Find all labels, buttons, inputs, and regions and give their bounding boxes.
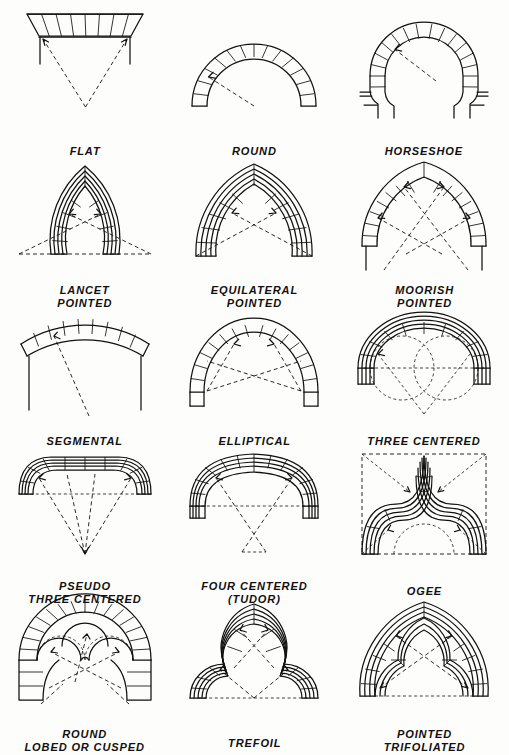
round-arch-radius-line [209,72,255,106]
figure-drawing-horseshoe [339,6,509,131]
figure-cell-ogee: OGEE [339,448,509,598]
figure-drawing-round [170,6,340,131]
figure-cell-elliptical: ELLIPTICAL [170,306,340,448]
figure-caption-elliptical: ELLIPTICAL [218,422,290,448]
caption-line-2: POINTED [395,297,454,310]
cusped-construction-lines [37,634,133,704]
flat-arch-outline [27,14,143,64]
figure-caption-pointed-trifoliated: POINTED TRIFOLIATED [383,715,465,755]
figure-cell-flat: FLAT [0,6,170,158]
figure-drawing-lancet-pointed [0,158,170,270]
caption-line-1: FOUR CENTERED [201,580,307,592]
figure-cell-moorish-pointed: MOORISH POINTED [339,158,509,306]
figure-caption-trefoil: TREFOIL [228,724,281,750]
segmental-arch-outline [21,319,149,410]
figure-caption-ogee: OGEE [406,572,441,598]
lancet-construction-lines [19,209,151,254]
caption-line-2: TRIFOLIATED [383,741,465,754]
figure-cell-round: ROUND [170,6,340,158]
equilateral-arch-bands [196,164,312,256]
caption-line-1: HORSESHOE [385,145,463,157]
caption-line-2: POINTED [57,297,112,310]
horseshoe-radius-line [395,44,436,81]
caption-line-1: ROUND [62,728,107,740]
caption-line-1: PSEUDO [59,580,111,592]
figure-drawing-elliptical [170,306,340,421]
figure-caption-lancet-pointed: LANCET POINTED [57,271,112,323]
figure-caption-four-centered-tudor: FOUR CENTERED (TUDOR) [201,567,307,619]
elliptical-arch-outline [190,318,318,406]
pointed-trifoliated-outer [360,602,488,696]
moorish-arch-outline [362,162,486,270]
figure-drawing-four-centered-tudor [170,448,340,566]
three-centered-radius-lines [378,350,470,414]
caption-line-1: EQUILATERAL [211,284,298,296]
caption-line-1: THREE CENTERED [368,435,481,447]
figure-cell-equilateral-pointed: EQUILATERAL POINTED [170,158,340,306]
four-centered-bands [190,454,318,518]
figure-caption-moorish-pointed: MOORISH POINTED [395,271,454,323]
figure-drawing-segmental [0,306,170,421]
caption-line-2: LOBED OR CUSPED [25,741,145,754]
flat-arch-construction-lines [43,39,127,107]
figure-caption-pseudo-three-centered: PSEUDO THREE CENTERED [28,567,141,619]
figure-drawing-flat [0,6,170,131]
horseshoe-arch-outline [360,22,488,118]
caption-line-2: POINTED [211,297,298,310]
figure-drawing-pointed-trifoliated [339,598,509,714]
figure-cell-pseudo-three-centered: PSEUDO THREE CENTERED [0,448,170,598]
figure-cell-round-lobed-or-cusped: ROUND LOBED OR CUSPED [0,598,170,750]
figure-cell-three-centered: THREE CENTERED [339,306,509,448]
figure-caption-equilateral-pointed: EQUILATERAL POINTED [211,271,298,323]
figure-caption-horseshoe: HORSESHOE [385,132,463,158]
ogee-arch-bands [362,456,486,554]
caption-line-1: ROUND [232,145,277,157]
figure-caption-segmental: SEGMENTAL [47,422,123,448]
moorish-construction-lines [378,182,470,270]
caption-line-1: POINTED [397,728,452,740]
figure-cell-lancet-pointed: LANCET POINTED [0,158,170,306]
pointed-trifoliated-cusps [375,618,473,696]
caption-line-1: OGEE [406,585,441,597]
figure-cell-pointed-trifoliated: POINTED TRIFOLIATED [339,598,509,750]
figure-drawing-equilateral-pointed [170,158,340,270]
caption-line-1: FLAT [69,145,100,157]
figure-cell-four-centered-tudor: FOUR CENTERED (TUDOR) [170,448,340,598]
figure-caption-round-lobed-or-cusped: ROUND LOBED OR CUSPED [25,715,145,755]
caption-line-1: SEGMENTAL [47,435,123,447]
caption-line-2: THREE CENTERED [28,593,141,606]
segmental-radius-line [54,332,89,416]
lancet-arch-bands [50,166,120,254]
figure-drawing-ogee [339,448,509,571]
pseudo-three-centered-bands [19,457,151,494]
caption-line-1: ELLIPTICAL [218,435,290,447]
trefoil-construction-lines [198,625,310,698]
caption-line-2: (TUDOR) [201,593,307,606]
figure-drawing-three-centered [339,306,509,421]
pointed-trifoliated-construction-lines [375,631,473,696]
figure-cell-segmental: SEGMENTAL [0,306,170,448]
caption-line-1: LANCET [60,284,110,296]
caption-line-1: TREFOIL [228,737,281,749]
figure-drawing-moorish-pointed [339,158,509,270]
cusped-inner-lobes [37,623,133,700]
figure-caption-flat: FLAT [69,132,100,158]
figure-drawing-pseudo-three-centered [0,448,170,566]
pseudo-three-centered-construction-lines [19,474,151,554]
figure-caption-three-centered: THREE CENTERED [368,422,481,448]
four-centered-construction-lines [190,474,318,552]
figure-caption-round: ROUND [232,132,277,158]
figure-cell-horseshoe: HORSESHOE [339,6,509,158]
figure-cell-trefoil: TREFOIL [170,598,340,750]
caption-line-1: MOORISH [395,284,454,296]
